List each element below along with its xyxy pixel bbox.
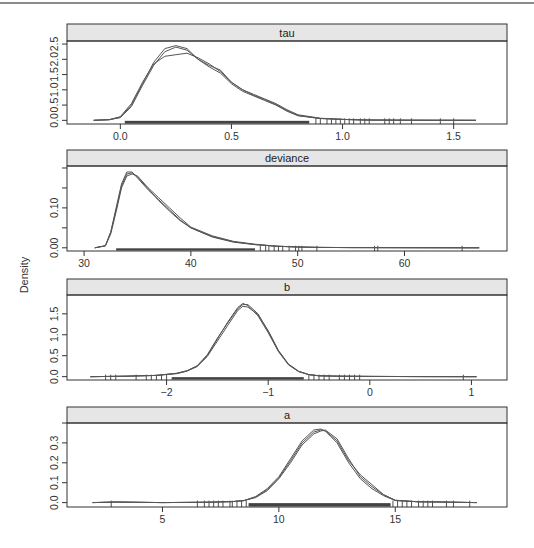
x-tick-label: 60 bbox=[399, 257, 411, 269]
panel-a: a510150.00.10.20.3 bbox=[48, 407, 507, 525]
density-curve-chain-1 bbox=[90, 303, 476, 376]
density-curve-chain-3 bbox=[94, 47, 476, 120]
x-tick-label: 0.0 bbox=[113, 130, 128, 142]
y-tick-label: 0.0 bbox=[48, 369, 60, 384]
density-curve-chain-3 bbox=[95, 173, 479, 248]
panel-deviance: deviance304050600.000.10 bbox=[48, 150, 507, 269]
y-tick-label: 0.10 bbox=[48, 198, 60, 219]
y-axis-label: Density bbox=[18, 257, 30, 294]
density-curve-chain-2 bbox=[90, 306, 476, 376]
panel-tau: tau0.00.51.01.50.00.51.01.52.02.5 bbox=[48, 24, 507, 142]
density-curve-chain-2 bbox=[95, 174, 479, 248]
x-tick-label: 0.5 bbox=[224, 130, 239, 142]
strip-label: tau bbox=[279, 27, 294, 39]
x-tick-label: −2 bbox=[161, 386, 173, 398]
y-tick-label: 2.5 bbox=[48, 37, 60, 52]
rug bbox=[125, 118, 454, 124]
y-tick-label: 1.5 bbox=[48, 306, 60, 321]
density-curve-chain-2 bbox=[93, 430, 477, 503]
plot-frame bbox=[67, 295, 507, 380]
x-tick-label: 1 bbox=[469, 386, 475, 398]
x-tick-label: 1.5 bbox=[446, 130, 461, 142]
strip-label: b bbox=[284, 281, 290, 293]
x-tick-label: 50 bbox=[292, 257, 304, 269]
density-curve-chain-3 bbox=[93, 430, 477, 503]
density-curve-chain-1 bbox=[95, 172, 479, 248]
y-tick-label: 0.2 bbox=[48, 455, 60, 470]
strip-label: a bbox=[284, 409, 291, 421]
y-tick-label: 1.5 bbox=[48, 67, 60, 82]
x-tick-label: 1.0 bbox=[335, 130, 350, 142]
x-tick-label: 10 bbox=[273, 513, 285, 525]
x-tick-label: 40 bbox=[185, 257, 197, 269]
y-tick-label: 0.0 bbox=[48, 495, 60, 510]
plot-frame bbox=[67, 166, 507, 251]
x-tick-label: 5 bbox=[160, 513, 166, 525]
density-curve-chain-3 bbox=[90, 305, 476, 377]
y-tick-label: 0.1 bbox=[48, 475, 60, 490]
y-tick-label: 0.5 bbox=[48, 348, 60, 363]
y-tick-label: 1.0 bbox=[48, 327, 60, 342]
y-tick-label: 0.3 bbox=[48, 435, 60, 450]
x-tick-label: −1 bbox=[262, 386, 274, 398]
y-tick-label: 2.0 bbox=[48, 52, 60, 67]
y-tick-label: 0.00 bbox=[48, 237, 60, 258]
strip-label: deviance bbox=[265, 152, 309, 164]
density-plot: tau0.00.51.01.50.00.51.01.52.02.5devianc… bbox=[0, 0, 534, 548]
x-tick-label: 30 bbox=[78, 257, 90, 269]
y-tick-label: 1.0 bbox=[48, 82, 60, 97]
x-tick-label: 15 bbox=[389, 513, 401, 525]
y-tick-label: 0.5 bbox=[48, 98, 60, 113]
y-tick-label: 0.0 bbox=[48, 113, 60, 128]
x-tick-label: 0 bbox=[367, 386, 373, 398]
panel-b: b−2−1010.00.51.01.5 bbox=[48, 279, 507, 398]
density-curve-chain-1 bbox=[93, 429, 477, 503]
